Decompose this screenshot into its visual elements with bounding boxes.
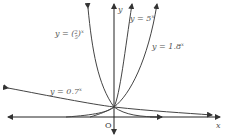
label-zero-point-seven: y = 0.7x [49, 86, 82, 96]
origin-label: O [105, 121, 112, 130]
x-axis-label: x [216, 121, 221, 130]
curve-two-fifths-pow-x [88, 8, 162, 117]
y-axis-label: y [117, 5, 123, 14]
label-five: y = 5x [129, 13, 154, 23]
label-two-fifths: y = (25)x [54, 28, 84, 40]
label-one-point-eight: y = 1.8x [151, 41, 184, 51]
curve-five-pow-x [66, 4, 132, 117]
exponential-graphs-chart: y = (25)x y = 5x y = 1.8x y = 0.7x y x O [0, 0, 225, 139]
